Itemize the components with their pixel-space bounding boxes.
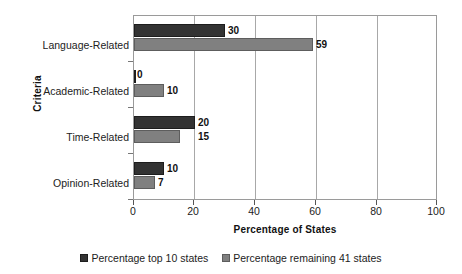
bar-label: 10 bbox=[167, 84, 178, 97]
bar-label: 15 bbox=[198, 130, 209, 143]
bar-remaining-opinion bbox=[134, 176, 155, 189]
legend-item-remaining: Percentage remaining 41 states bbox=[222, 252, 381, 264]
x-axis-title: Percentage of States bbox=[133, 224, 437, 235]
bar-group: 0 10 bbox=[134, 62, 436, 108]
y-axis-tick-label: Language-Related bbox=[28, 39, 129, 51]
bar-label: 59 bbox=[316, 38, 327, 51]
bar-label: 0 bbox=[137, 68, 143, 81]
chart-legend: Percentage top 10 states Percentage rema… bbox=[0, 252, 462, 264]
legend-swatch-icon bbox=[222, 254, 230, 262]
bar-top10-language bbox=[134, 24, 225, 37]
legend-swatch-icon bbox=[80, 254, 88, 262]
x-axis-tick-label: 100 bbox=[427, 205, 445, 217]
legend-label: Percentage top 10 states bbox=[91, 252, 208, 264]
bar-label: 10 bbox=[167, 162, 178, 175]
bar-top10-academic bbox=[134, 70, 136, 83]
y-axis-tick-labels: Language-Related Academic-Related Time-R… bbox=[28, 15, 129, 200]
bar-label: 20 bbox=[198, 116, 209, 129]
x-axis-tick-labels: 0 20 40 60 80 100 bbox=[133, 205, 437, 219]
y-axis-tick-label: Opinion-Related bbox=[28, 177, 129, 189]
x-axis-tick-label: 0 bbox=[130, 205, 136, 217]
y-axis-tick-label: Time-Related bbox=[28, 131, 129, 143]
x-axis-tick-label: 40 bbox=[248, 205, 260, 217]
y-axis-tick-label: Academic-Related bbox=[28, 85, 129, 97]
bar-group: 10 7 bbox=[134, 154, 436, 200]
bar-label: 30 bbox=[228, 24, 239, 37]
bar-remaining-time bbox=[134, 130, 180, 143]
x-axis-tick-label: 60 bbox=[309, 205, 321, 217]
bar-group: 20 15 bbox=[134, 108, 436, 154]
x-axis-tick-label: 20 bbox=[187, 205, 199, 217]
legend-item-top10: Percentage top 10 states bbox=[80, 252, 208, 264]
bar-label: 7 bbox=[158, 176, 164, 189]
bar-top10-opinion bbox=[134, 162, 164, 175]
bar-chart: Criteria Language-Related Academic-Relat… bbox=[0, 0, 462, 274]
x-axis-tick-label: 80 bbox=[370, 205, 382, 217]
plot-area: 30 59 0 10 20 15 10 7 bbox=[133, 15, 437, 200]
bar-top10-time bbox=[134, 116, 195, 129]
legend-label: Percentage remaining 41 states bbox=[233, 252, 381, 264]
bar-remaining-language bbox=[134, 38, 313, 51]
bar-remaining-academic bbox=[134, 84, 164, 97]
bar-group: 30 59 bbox=[134, 16, 436, 62]
